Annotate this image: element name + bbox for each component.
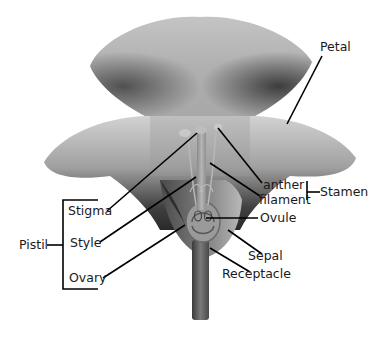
label-ovule: Ovule <box>260 212 296 225</box>
label-style: Style <box>70 237 101 250</box>
label-stamen: Stamen <box>320 186 368 199</box>
label-stigma: Stigma <box>68 205 112 218</box>
label-filament: filament <box>259 194 311 207</box>
flower-diagram: Petal anther filament Stamen Ovule Sepal… <box>0 0 381 337</box>
upper-petal <box>90 17 312 116</box>
anther <box>179 129 191 137</box>
label-pistil: Pistil <box>19 239 48 252</box>
label-ovary: Ovary <box>69 272 106 285</box>
anther <box>214 124 222 131</box>
label-petal: Petal <box>320 41 351 54</box>
label-sepal: Sepal <box>248 250 283 263</box>
label-receptacle: Receptacle <box>222 268 291 281</box>
stem <box>192 240 209 320</box>
style <box>197 130 206 210</box>
label-anther: anther <box>263 179 304 192</box>
